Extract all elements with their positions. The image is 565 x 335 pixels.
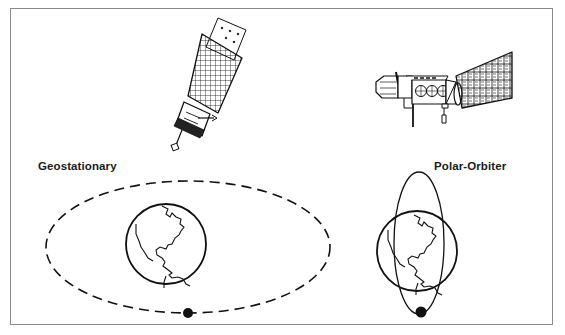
geostationary-orbit-diagram xyxy=(46,181,330,318)
polar-orbit-diagram xyxy=(377,172,457,318)
earth-outline xyxy=(377,211,457,291)
polar-orbiter-satellite-icon xyxy=(376,52,512,127)
geostationary-satellite-icon xyxy=(171,18,246,151)
diagram-canvas xyxy=(0,0,565,335)
earth-icon xyxy=(126,204,206,288)
geostationary-satellite-marker xyxy=(183,308,193,318)
polar-satellite-marker xyxy=(416,307,427,318)
